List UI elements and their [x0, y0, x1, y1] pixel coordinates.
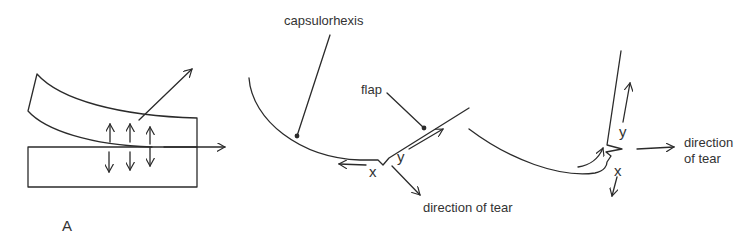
- flap-point-dot: [422, 126, 427, 131]
- tear-direction-arrow-icon: [392, 166, 420, 195]
- capsulorhexis-point-dot: [295, 134, 300, 139]
- tear-direction-arrow-icon: [637, 147, 674, 149]
- y-axis-label-c: y: [619, 124, 627, 139]
- x-axis-label-c: x: [614, 163, 622, 178]
- panel-c: [469, 51, 674, 196]
- y-arrow-icon: [623, 83, 630, 122]
- panel-b: [249, 35, 469, 195]
- x-arrow-icon: [612, 177, 617, 196]
- x-arrow-icon: [339, 164, 366, 165]
- lower-capsule-rect: [28, 147, 197, 187]
- y-axis-label-b: y: [397, 149, 405, 164]
- capsulorhexis-label: capsulorhexis: [284, 14, 364, 27]
- lifted-flap: [28, 74, 197, 147]
- flap-label: flap: [361, 83, 382, 96]
- panel-a: [28, 69, 225, 187]
- direction-of-tear-label-c-line1: direction: [684, 136, 733, 149]
- diagram-canvas: [0, 0, 743, 242]
- fold-curved-arrow-icon: [578, 148, 603, 167]
- capsulorhexis-leader-line: [297, 35, 330, 136]
- lift-arrow-icon: [139, 69, 192, 120]
- panel-a-caption: A: [62, 218, 72, 233]
- flap-leader-line: [387, 93, 424, 128]
- direction-of-tear-label-c-line2: of tear: [684, 152, 721, 165]
- x-axis-label-b: x: [369, 164, 377, 179]
- direction-of-tear-label-b: direction of tear: [423, 201, 513, 214]
- y-arrow-icon: [409, 129, 443, 149]
- capsulorhexis-edge: [249, 78, 469, 165]
